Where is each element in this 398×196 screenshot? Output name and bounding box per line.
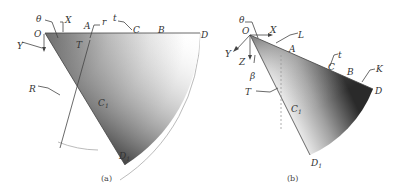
y-arrow-icon xyxy=(42,47,46,52)
label-z: Z xyxy=(238,57,246,67)
label-r: r xyxy=(102,17,107,27)
R-leader xyxy=(38,86,60,95)
beta-leader xyxy=(254,55,255,63)
label-t: t xyxy=(113,13,117,23)
r-arc xyxy=(58,142,98,150)
label-y: Y xyxy=(17,41,24,51)
label-x: X xyxy=(64,15,72,25)
k-leader xyxy=(362,69,375,82)
y-arrow-icon xyxy=(233,46,239,52)
caption-b: (b) xyxy=(287,174,298,183)
label-b: B xyxy=(157,25,165,35)
label-c: C xyxy=(133,25,140,35)
label-t-upper: T xyxy=(245,87,252,97)
figure-b: θ O X L Y Z β A t C B K D T C1 D1 (b) xyxy=(225,15,384,183)
label-t: t xyxy=(338,50,342,60)
sector-b-shade xyxy=(250,35,373,155)
label-theta: θ xyxy=(36,14,42,24)
figure-a: θ X O Y A r t C B D T R C1 D1 (a) xyxy=(17,13,208,183)
label-a: A xyxy=(288,44,296,54)
x-leader xyxy=(60,22,63,32)
label-b: B xyxy=(346,67,354,77)
label-c: C xyxy=(328,62,335,72)
label-k: K xyxy=(375,64,384,74)
t-leader xyxy=(118,21,132,30)
label-a: A xyxy=(83,21,91,31)
label-t-upper: T xyxy=(76,40,83,50)
label-y: Y xyxy=(225,49,232,59)
label-o: O xyxy=(242,26,250,36)
y-leader xyxy=(22,42,42,48)
y-axis xyxy=(236,35,250,50)
label-d1: D1 xyxy=(310,158,322,169)
T-leader xyxy=(256,88,278,92)
label-l: L xyxy=(297,30,304,40)
caption-a: (a) xyxy=(101,174,112,183)
label-R: R xyxy=(28,84,36,94)
label-o: O xyxy=(34,29,42,39)
label-d: D xyxy=(374,86,382,96)
label-x: X xyxy=(269,25,277,35)
label-beta: β xyxy=(249,71,255,81)
l-leader xyxy=(276,33,298,43)
z-arrow-icon xyxy=(248,55,252,60)
label-theta: θ xyxy=(239,15,245,25)
label-d: D xyxy=(200,30,208,40)
figure-canvas: θ X O Y A r t C B D T R C1 D1 (a) xyxy=(0,0,398,196)
